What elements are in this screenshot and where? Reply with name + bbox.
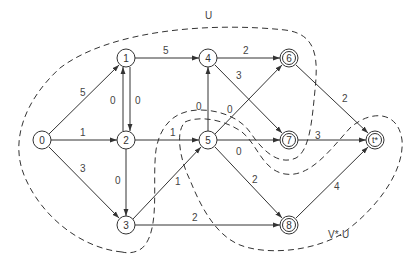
node-label: 0 <box>39 135 45 146</box>
region-v-minus-u-label: V*-U <box>328 229 349 240</box>
edge-0-1 <box>49 65 119 134</box>
weight-1-4: 5 <box>163 45 169 56</box>
weight-5-4: 0 <box>196 101 202 112</box>
node-label: t* <box>372 135 379 145</box>
node-1: 1 <box>117 49 135 67</box>
node-3: 3 <box>117 216 135 234</box>
graph-diagram: U V*-U 5 1 3 0 0 5 0 1 1 2 0 2 3 <box>0 0 418 265</box>
region-u-label: U <box>205 10 212 21</box>
node-label: 7 <box>286 135 292 146</box>
weight-4-6: 2 <box>243 45 249 56</box>
edge-8-t <box>296 147 368 218</box>
weight-5-6: 0 <box>227 104 233 115</box>
weight-5-7: 0 <box>236 146 242 157</box>
node-6: 6 <box>280 49 298 67</box>
node-2: 2 <box>117 131 135 149</box>
edge-0-3 <box>49 147 119 218</box>
weight-8-t: 4 <box>334 181 340 192</box>
node-label: 3 <box>123 220 129 231</box>
weight-2-5: 1 <box>170 127 176 138</box>
weight-0-2: 1 <box>80 127 86 138</box>
weight-3-8: 2 <box>192 212 198 223</box>
node-label: 2 <box>123 135 129 146</box>
node-5: 5 <box>199 131 217 149</box>
weight-7-t: 3 <box>315 130 321 141</box>
weight-0-1: 5 <box>80 87 86 98</box>
weight-5-8: 2 <box>252 174 258 185</box>
weight-2-1: 0 <box>110 95 116 106</box>
weight-4-7: 3 <box>236 70 242 81</box>
weight-2-3: 0 <box>115 175 121 186</box>
edge-6-t <box>296 65 368 133</box>
graph-svg: U V*-U 5 1 3 0 0 5 0 1 1 2 0 2 3 <box>0 0 418 265</box>
node-label: 4 <box>205 53 211 64</box>
weight-6-t: 2 <box>342 93 348 104</box>
node-8: 8 <box>280 216 298 234</box>
node-0: 0 <box>33 131 51 149</box>
weight-3-5: 1 <box>175 176 181 187</box>
node-7: 7 <box>280 131 298 149</box>
node-label: 5 <box>205 135 211 146</box>
node-4: 4 <box>199 49 217 67</box>
node-label: 1 <box>123 53 129 64</box>
node-t-star: t* <box>366 131 384 149</box>
weight-0-3: 3 <box>80 163 86 174</box>
node-label: 6 <box>286 53 292 64</box>
edge-5-8 <box>215 147 282 218</box>
node-label: 8 <box>286 220 292 231</box>
weight-1-2: 0 <box>135 95 141 106</box>
